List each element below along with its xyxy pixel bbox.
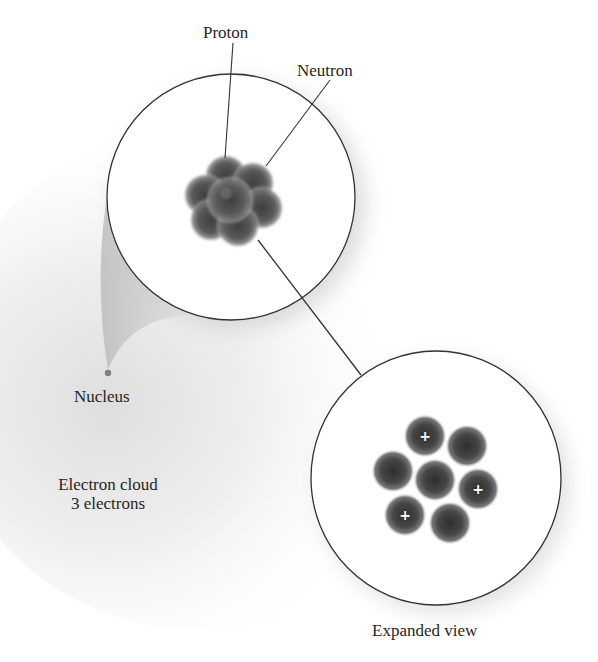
neutron-particle — [413, 458, 457, 502]
proton-plus-sign: + — [419, 428, 431, 444]
proton-particle: + — [383, 493, 427, 537]
proton-label: Proton — [203, 23, 248, 42]
proton-particle: + — [403, 414, 447, 458]
electron-cloud-label-line1: Electron cloud — [40, 475, 176, 494]
neutron-particle — [445, 424, 489, 468]
nucleus-label: Nucleus — [74, 387, 130, 406]
neutron-particle — [428, 501, 472, 545]
expanded-view-label: Expanded view — [372, 621, 477, 640]
nucleus-dot — [105, 370, 111, 376]
proton-plus-sign: + — [472, 481, 484, 497]
atom-structure-diagram: + + + — [0, 0, 598, 662]
neutron-label: Neutron — [297, 61, 353, 80]
proton-particle: + — [456, 467, 500, 511]
electron-cloud-label-line2: 3 electrons — [40, 494, 176, 513]
neutron-particle — [371, 449, 415, 493]
electron-cloud-label: Electron cloud 3 electrons — [40, 475, 176, 513]
proton-plus-sign: + — [399, 507, 411, 523]
